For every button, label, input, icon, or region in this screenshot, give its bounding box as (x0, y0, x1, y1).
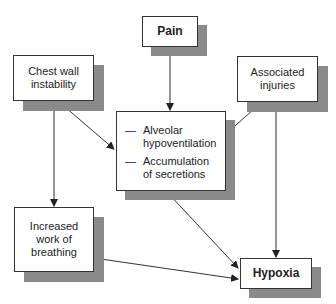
chest-wall-line2: instability (31, 78, 76, 91)
pain-label: Pain (157, 25, 182, 38)
chest-wall-line1: Chest wall (28, 65, 79, 78)
dash-bullet: — (125, 124, 143, 150)
hypoxia-label: Hypoxia (253, 267, 300, 280)
list-item-alveolar: — Alveolar hypoventilation (125, 124, 219, 150)
work-line2: work of (36, 233, 71, 246)
associated-line2: injuries (260, 79, 295, 92)
pain-box: Pain (142, 16, 198, 47)
secretions-line2: of secretions (143, 168, 209, 181)
alveolar-line1: Alveolar (143, 124, 216, 137)
associated-line1: Associated (251, 66, 305, 79)
hypoxia-box: Hypoxia (240, 258, 312, 289)
dash-bullet: — (125, 155, 143, 181)
edge-central-to-hypoxia (166, 191, 238, 268)
work-box: Increased work of breathing (14, 207, 94, 272)
work-line3: breathing (31, 246, 77, 259)
alveolar-line2: hypoventilation (143, 137, 216, 150)
secretions-line1: Accumulation (143, 155, 209, 168)
central-box: — Alveolar hypoventilation — Accumulatio… (116, 111, 226, 191)
work-line1: Increased (30, 220, 78, 233)
chest-wall-box: Chest wall instability (13, 55, 94, 101)
list-item-secretions: — Accumulation of secretions (125, 155, 219, 181)
edge-work-to-hypoxia (94, 258, 238, 279)
associated-box: Associated injuries (237, 56, 318, 102)
